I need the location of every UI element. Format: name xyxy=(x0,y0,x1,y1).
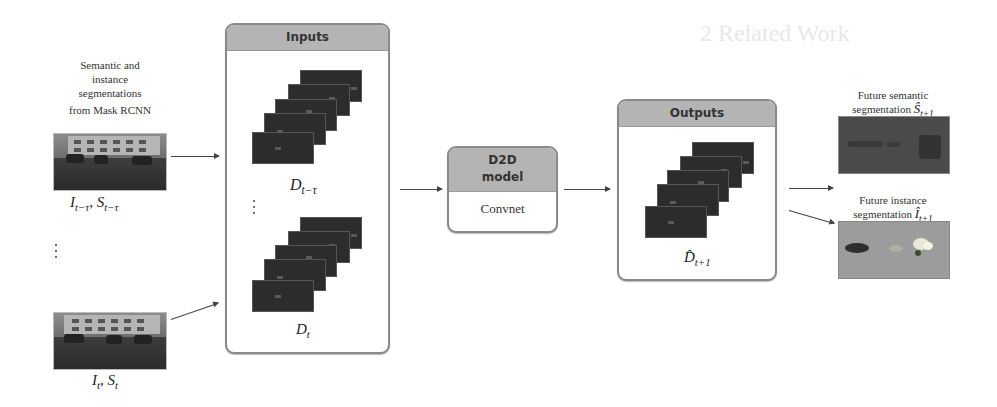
input-photo-t xyxy=(53,312,167,370)
input-photo-label-bottom: It, St xyxy=(92,372,118,391)
arrow-right-icon xyxy=(171,156,219,157)
source-caption-line: instance xyxy=(40,72,180,86)
input-stack-label-top: Dt−τ xyxy=(290,176,317,196)
depth-frame xyxy=(645,206,707,238)
inputs-panel-title: Inputs xyxy=(227,25,388,51)
source-caption-line: from Mask RCNN xyxy=(40,103,180,117)
source-caption-line: segmentations xyxy=(40,86,180,100)
output-stack-label: D̂t+1 xyxy=(684,249,711,268)
input-photo-label-top: It−τ, St−τ xyxy=(70,194,118,213)
caption-line: Future semantic xyxy=(823,89,963,102)
d2d-model-title: D2D model xyxy=(449,148,556,192)
d2d-model-title-line: D2D xyxy=(449,152,556,169)
ellipsis-vertical xyxy=(253,200,256,218)
background-section-heading: 2 Related Work xyxy=(700,20,850,47)
outputs-panel-title: Outputs xyxy=(619,101,775,127)
arrow-diagonal-icon xyxy=(171,303,219,320)
source-caption: Semantic and instance segmentations from… xyxy=(40,58,180,117)
d2d-model-body: Convnet xyxy=(449,192,556,226)
ellipsis-vertical xyxy=(55,244,58,262)
arrow-right-icon xyxy=(400,189,442,190)
arrow-right-icon xyxy=(564,189,610,190)
future-instance-segmentation-image xyxy=(838,221,950,279)
future-semantic-segmentation-image xyxy=(838,116,950,174)
d2d-model-title-line: model xyxy=(449,169,556,186)
depth-frame xyxy=(252,132,314,164)
depth-frame xyxy=(252,280,314,312)
input-photo-t-minus-tau xyxy=(53,133,167,191)
caption-line: Future instance xyxy=(823,194,963,207)
input-stack-label-bottom: Dt xyxy=(296,321,310,340)
source-caption-line: Semantic and xyxy=(40,58,180,72)
d2d-model-box: D2D model Convnet xyxy=(447,146,558,233)
arrow-right-icon xyxy=(789,188,833,189)
